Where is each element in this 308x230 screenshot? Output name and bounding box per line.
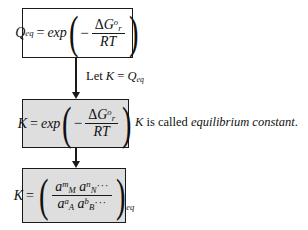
activity-a-subscript: A [69, 202, 74, 212]
exp-function: exp [47, 26, 66, 40]
fraction-gibbs-over-rt: ΔGor RT [85, 108, 118, 139]
equation-q-eq: Qeq = exp ( − ΔGor RT ) [15, 15, 140, 51]
arrow-head-icon [72, 161, 80, 168]
called-text-before: is called [143, 115, 191, 129]
var-k: K [18, 117, 27, 131]
equation-box-q-eq: Qeq = exp ( − ΔGor RT ) [22, 8, 133, 58]
let-var-q-sub: eq [136, 75, 143, 84]
diagram-canvas: Qeq = exp ( − ΔGor RT ) Let K = Qeq K = … [0, 0, 308, 230]
equation-box-k-activities: K = ( amM anN··· aaA abB··· )eq [22, 168, 126, 223]
arrow-shaft [75, 148, 77, 161]
annotation-k-is-called: K is called equilibrium constant. [135, 115, 298, 130]
equation-k-activities: K = ( amM anN··· aaA abB··· )eq [14, 178, 135, 214]
let-equals: = [114, 69, 127, 83]
called-emphasis: equilibrium constant [191, 115, 295, 129]
let-var-k: K [106, 69, 114, 83]
subscript-r: r [112, 113, 115, 123]
var-q: Q [15, 26, 25, 40]
fraction-denominator: RT [97, 34, 119, 49]
equals-sign: = [23, 189, 37, 203]
paren-close-icon: ) [128, 15, 138, 51]
activity-m-subscript: M [69, 185, 76, 195]
let-prefix: Let [86, 69, 106, 83]
equation-k-exp: K = exp ( − ΔGor RT ) [18, 106, 134, 142]
outer-subscript-eq: eq [126, 203, 134, 212]
paren-close-icon: ) [116, 178, 126, 214]
subscript-r: r [118, 23, 121, 33]
fraction-denominator: RT [90, 124, 112, 139]
fraction-gibbs-over-rt: ΔGor RT [92, 18, 125, 49]
fraction-denominator-reactants: aaA abB··· [54, 196, 109, 211]
minus-sign: − [80, 26, 88, 41]
var-g: G [97, 107, 107, 122]
fraction-numerator: ΔGor [85, 108, 118, 124]
paren-open-icon: ( [39, 178, 49, 214]
minus-sign: − [74, 116, 82, 131]
var-g: G [104, 17, 114, 32]
denominator-ellipsis: ··· [94, 196, 107, 208]
equation-box-k-exp: K = exp ( − ΔGor RT ) [22, 99, 129, 148]
exp-function: exp [41, 117, 60, 131]
fraction-numerator-products: amM anN··· [52, 180, 112, 196]
paren-open-icon: ( [62, 106, 72, 142]
paren-close-icon: ) [122, 106, 132, 142]
delta-symbol: Δ [88, 107, 97, 122]
activity-b-base: a [78, 196, 85, 211]
numerator-ellipsis: ··· [96, 179, 109, 191]
equals-sign: = [27, 117, 41, 131]
arrow-shaft [75, 58, 77, 92]
paren-open-icon: ( [69, 15, 79, 51]
delta-symbol: Δ [95, 17, 104, 32]
annotation-let-k-equals-q-eq: Let K = Qeq [86, 69, 144, 84]
var-k: K [14, 189, 23, 203]
equals-sign: = [34, 26, 48, 40]
fraction-activities: amM anN··· aaA abB··· [52, 180, 112, 211]
called-text-after: . [295, 115, 298, 129]
arrow-head-icon [72, 92, 80, 99]
fraction-numerator: ΔGor [92, 18, 125, 34]
